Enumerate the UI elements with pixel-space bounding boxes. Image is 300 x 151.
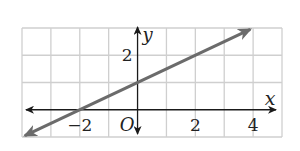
- x-tick-label: −2: [67, 115, 92, 135]
- x-axis-label: x: [265, 87, 276, 109]
- origin-label: O: [120, 114, 135, 135]
- y-tick-label: 2: [122, 45, 133, 65]
- y-axis-label: y: [142, 24, 154, 45]
- tick-labels: −2242Oyx: [67, 24, 275, 135]
- x-tick-label: 4: [248, 115, 259, 135]
- x-tick-label: 2: [190, 115, 201, 135]
- coordinate-graph: −2242Oyx: [0, 0, 300, 151]
